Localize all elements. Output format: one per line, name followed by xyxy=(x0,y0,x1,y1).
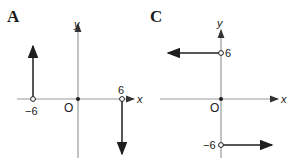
open-circle-pos6 xyxy=(120,97,125,102)
panel-a: A x y O −6 6 xyxy=(7,7,143,158)
y-axis-label: y xyxy=(73,18,81,30)
tick-pos6-label: 6 xyxy=(118,84,124,96)
origin-point xyxy=(219,97,223,101)
origin-point xyxy=(76,97,80,101)
x-axis-label: x xyxy=(280,93,287,105)
x-axis-label: x xyxy=(136,93,143,105)
diagram-canvas: A x y O −6 6 C x y O 6 xyxy=(0,0,292,162)
panel-c-label: C xyxy=(150,7,162,26)
open-circle-pos6 xyxy=(219,51,224,56)
origin-label: O xyxy=(210,101,219,115)
panel-c: C x y O 6 −6 xyxy=(150,7,287,158)
tick-neg6-label: −6 xyxy=(25,105,38,117)
tick-pos6-label: 6 xyxy=(225,47,231,59)
tick-neg6-label: −6 xyxy=(203,139,216,151)
open-circle-neg6 xyxy=(219,143,224,148)
origin-label: O xyxy=(64,101,73,115)
open-circle-neg6 xyxy=(31,97,36,102)
y-axis-label: y xyxy=(216,17,224,29)
panel-a-label: A xyxy=(7,7,20,26)
